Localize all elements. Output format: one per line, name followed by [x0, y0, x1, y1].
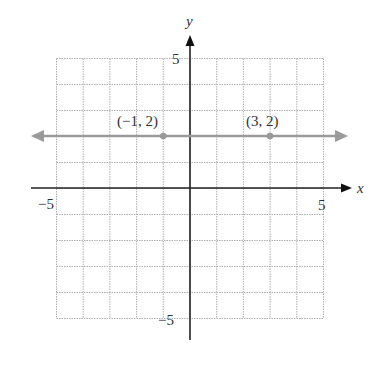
- point-b: [267, 133, 274, 140]
- y-axis-arrow-icon: [186, 35, 195, 46]
- x-axis-label: x: [356, 180, 364, 196]
- y-axis-label: y: [184, 13, 193, 29]
- coordinate-plane: y x 5 −5 −5 5 (−1, 2) (3, 2): [0, 0, 379, 367]
- x-max-tick-label: 5: [318, 197, 326, 213]
- point-a-label: (−1, 2): [117, 113, 158, 130]
- point-a: [160, 133, 167, 140]
- x-min-tick-label: −5: [38, 196, 54, 212]
- x-axis-arrow-icon: [341, 184, 352, 193]
- line-right-arrow-icon: [335, 130, 348, 142]
- y-max-tick-label: 5: [172, 51, 180, 67]
- point-b-label: (3, 2): [246, 113, 279, 130]
- y-min-tick-label: −5: [158, 312, 174, 328]
- line-left-arrow-icon: [31, 130, 44, 142]
